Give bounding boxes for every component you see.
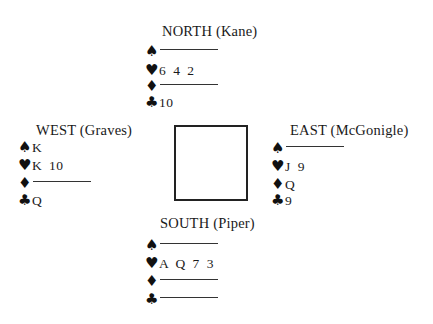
- south-hearts-row: ♥ A Q 7 3: [145, 255, 214, 272]
- south-clubs-row: ♣: [145, 291, 218, 308]
- east-diamonds-cards: Q: [285, 176, 295, 193]
- spade-icon: ♠: [18, 139, 31, 156]
- void-line: [160, 243, 218, 244]
- void-line: [286, 146, 344, 147]
- void-line: [33, 181, 91, 182]
- spade-icon: ♠: [145, 43, 158, 60]
- north-clubs-cards: 10: [159, 94, 174, 111]
- west-clubs-cards: Q: [32, 192, 42, 209]
- south-diamonds-row: ♦: [145, 273, 218, 290]
- west-diamonds-row: ♦: [18, 175, 91, 192]
- east-hearts-cards: J 9: [285, 158, 305, 175]
- north-spades-row: ♠: [145, 43, 218, 60]
- east-hearts-row: ♥ J 9: [271, 158, 305, 175]
- spade-icon: ♠: [271, 140, 284, 157]
- west-spades-cards: K: [32, 139, 42, 156]
- south-title: SOUTH (Piper): [160, 215, 255, 231]
- west-clubs-row: ♣ Q: [18, 192, 42, 209]
- south-hearts-cards: A Q 7 3: [159, 255, 214, 272]
- heart-icon: ♥: [145, 255, 158, 272]
- heart-icon: ♥: [18, 157, 31, 174]
- club-icon: ♣: [145, 291, 158, 308]
- diamond-icon: ♦: [18, 175, 31, 192]
- east-title: EAST (McGonigle): [290, 122, 409, 138]
- west-hearts-cards: K 10: [32, 157, 64, 174]
- void-line: [160, 279, 218, 280]
- table-square: [174, 125, 248, 201]
- north-clubs-row: ♣ 10: [145, 94, 174, 111]
- east-clubs-row: ♣ 9: [271, 192, 292, 209]
- void-line: [160, 84, 218, 85]
- club-icon: ♣: [18, 192, 31, 209]
- north-title: NORTH (Kane): [162, 23, 257, 39]
- west-title: WEST (Graves): [36, 122, 132, 138]
- club-icon: ♣: [271, 192, 284, 209]
- north-hearts-cards: 6 4 2: [159, 62, 195, 79]
- diamond-icon: ♦: [145, 273, 158, 290]
- spade-icon: ♠: [145, 237, 158, 254]
- south-spades-row: ♠: [145, 237, 218, 254]
- west-hearts-row: ♥ K 10: [18, 157, 64, 174]
- void-line: [160, 49, 218, 50]
- west-spades-row: ♠ K: [18, 139, 42, 156]
- east-spades-row: ♠: [271, 140, 344, 157]
- void-line: [160, 297, 218, 298]
- club-icon: ♣: [145, 94, 158, 111]
- east-clubs-cards: 9: [285, 192, 292, 209]
- heart-icon: ♥: [271, 158, 284, 175]
